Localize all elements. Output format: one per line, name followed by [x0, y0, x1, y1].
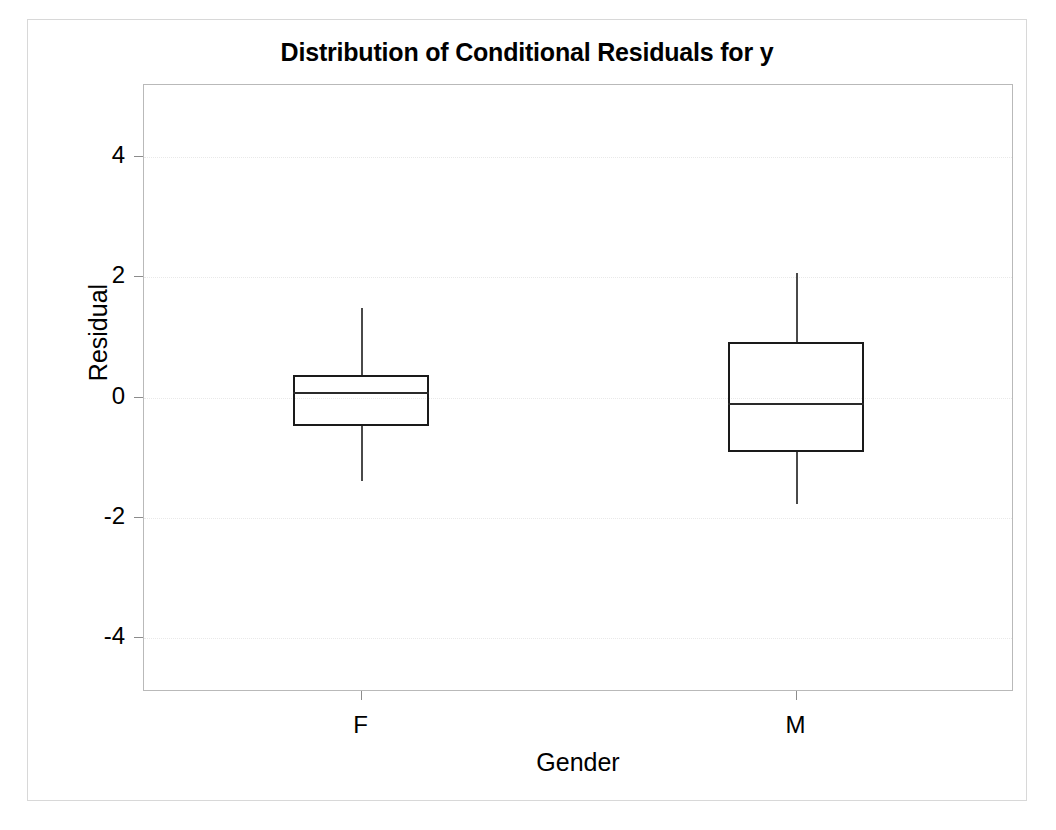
- y-gridline: [144, 638, 1012, 640]
- boxplot-median-line: [728, 403, 864, 405]
- boxplot-box: [728, 342, 864, 451]
- y-axis-tick-label: 4: [33, 143, 125, 167]
- y-axis-tick: [134, 637, 143, 638]
- y-axis-tick: [134, 276, 143, 277]
- y-gridline: [144, 398, 1012, 400]
- y-axis-tick-label: -4: [33, 624, 125, 648]
- y-gridline: [144, 518, 1012, 520]
- chart-figure: Distribution of Conditional Residuals fo…: [0, 0, 1056, 830]
- y-gridline: [144, 277, 1012, 279]
- plot-inner: [144, 85, 1012, 690]
- whisker-upper: [796, 273, 798, 343]
- y-axis-tick-label: -2: [33, 504, 125, 528]
- whisker-lower: [361, 426, 363, 481]
- whisker-upper: [361, 308, 363, 375]
- y-axis-tick: [134, 517, 143, 518]
- whisker-lower: [796, 452, 798, 504]
- y-axis-label: Residual: [84, 223, 113, 443]
- y-axis-tick: [134, 397, 143, 398]
- x-axis-label: Gender: [143, 748, 1013, 777]
- x-axis-tick-label: F: [301, 713, 421, 737]
- y-axis-tick-label: 0: [33, 384, 125, 408]
- y-axis-tick-label: 2: [33, 263, 125, 287]
- chart-title: Distribution of Conditional Residuals fo…: [27, 38, 1027, 67]
- boxplot-median-line: [293, 392, 429, 394]
- x-axis-tick: [361, 691, 362, 700]
- y-axis-tick: [134, 156, 143, 157]
- boxplot-box: [293, 375, 429, 426]
- x-axis-tick-label: M: [736, 713, 856, 737]
- plot-area: [143, 84, 1013, 691]
- y-gridline: [144, 157, 1012, 159]
- x-axis-tick: [796, 691, 797, 700]
